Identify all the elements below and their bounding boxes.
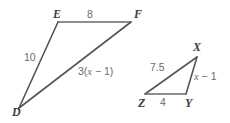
geometry-figure: D E F 8 10 3(x − 1) X Y Z 7.5 x − 1 4 [0, 0, 230, 123]
triangle-def [19, 22, 131, 108]
side-label-df-suffix: − 1) [92, 65, 113, 77]
vertex-label-f: F [134, 8, 142, 20]
segment-df [19, 22, 131, 108]
vertex-label-x: X [193, 41, 201, 53]
side-label-df-prefix: 3( [78, 65, 87, 77]
segment-de [19, 22, 58, 108]
vertex-label-z: Z [138, 97, 145, 109]
side-label-xy-suffix: − 1 [199, 70, 217, 82]
side-label-zy: 4 [160, 97, 166, 108]
side-label-xy: x − 1 [194, 71, 216, 83]
vertex-label-y: Y [185, 97, 192, 109]
vertex-label-d: D [12, 106, 21, 118]
side-label-zx: 7.5 [150, 62, 165, 73]
side-label-ef: 8 [87, 9, 93, 20]
side-label-df: 3(x − 1) [78, 66, 113, 78]
vertex-label-e: E [53, 8, 61, 20]
side-label-de: 10 [24, 52, 36, 63]
